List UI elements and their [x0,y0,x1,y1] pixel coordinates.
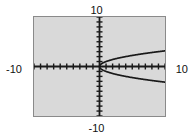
graph-screen: 10 -10 10 -10 [0,0,193,137]
plot-canvas [34,17,165,116]
y-max-label: 10 [0,4,193,16]
x-min-label: -10 [6,63,22,75]
y-min-label: -10 [0,122,193,134]
plot-area[interactable] [33,16,166,117]
x-max-label: 10 [176,63,188,75]
